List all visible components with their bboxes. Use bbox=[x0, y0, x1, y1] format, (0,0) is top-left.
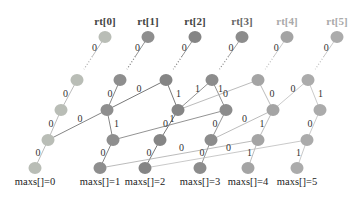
maxs-label: maxs[]=3 bbox=[180, 176, 220, 187]
trie-node bbox=[172, 104, 185, 116]
trie-node bbox=[194, 162, 207, 174]
trie-node bbox=[252, 74, 265, 86]
root-label: rt[3] bbox=[231, 15, 252, 27]
edge-label: 0 bbox=[229, 42, 234, 53]
maxs-label: maxs[]=1 bbox=[80, 176, 120, 187]
trie-node bbox=[206, 74, 219, 86]
maxs-label: maxs[]=5 bbox=[277, 176, 317, 187]
bottom-labels-layer: maxs[]=0maxs[]=1maxs[]=2maxs[]=3maxs[]=4… bbox=[15, 176, 317, 187]
edge-label: 0 bbox=[242, 113, 247, 124]
trie-node bbox=[42, 134, 55, 146]
edge-label: 0 bbox=[179, 142, 184, 153]
trie-node bbox=[160, 74, 173, 86]
edge-label: 0 bbox=[135, 42, 140, 53]
trie-node bbox=[220, 104, 233, 116]
root-label: rt[0] bbox=[94, 15, 115, 27]
edge-label: 1 bbox=[195, 83, 200, 94]
trie-node bbox=[242, 162, 255, 174]
edge-label: 0 bbox=[137, 83, 142, 94]
trie-node bbox=[189, 31, 202, 43]
trie-node bbox=[331, 31, 344, 43]
edge-label: 0 bbox=[92, 42, 97, 53]
trie-node bbox=[142, 31, 155, 43]
edge-label: 0 bbox=[147, 147, 152, 158]
maxs-label: maxs[]=0 bbox=[15, 176, 55, 187]
edge-label: 1 bbox=[176, 88, 181, 99]
edge-label: 0 bbox=[270, 88, 275, 99]
trie-node bbox=[55, 104, 68, 116]
trie-node bbox=[252, 134, 265, 146]
edge-label: 0 bbox=[213, 118, 218, 129]
maxs-label: maxs[]=4 bbox=[228, 176, 269, 187]
edge-label: 1 bbox=[247, 147, 252, 158]
edge-label: 0 bbox=[108, 88, 113, 99]
trie-node bbox=[314, 104, 327, 116]
edge-label: 0 bbox=[101, 147, 106, 158]
trie-node bbox=[236, 31, 249, 43]
trie-node bbox=[281, 31, 294, 43]
trie-node bbox=[139, 162, 152, 174]
trie-node bbox=[71, 74, 84, 86]
edge-label: 0 bbox=[324, 42, 329, 53]
edge-label: 0 bbox=[163, 118, 168, 129]
trie-node bbox=[302, 74, 315, 86]
trie-node bbox=[154, 134, 167, 146]
trie-diagram: 000000000001001001010010011001010 rt[0]r… bbox=[0, 0, 364, 200]
root-label: rt[1] bbox=[137, 15, 158, 27]
root-label: rt[5] bbox=[326, 15, 347, 27]
trie-node bbox=[291, 162, 304, 174]
edge-label: 0 bbox=[223, 88, 228, 99]
edge-label: 1 bbox=[170, 113, 175, 124]
trie-node bbox=[94, 162, 107, 174]
edge-label: 1 bbox=[318, 88, 323, 99]
edge-label: 1 bbox=[260, 118, 265, 129]
root-label: rt[4] bbox=[276, 15, 297, 27]
edges-layer bbox=[35, 37, 337, 168]
root-labels-layer: rt[0]rt[1]rt[2]rt[3]rt[4]rt[5] bbox=[94, 15, 347, 27]
edge-label: 0 bbox=[49, 118, 54, 129]
trie-node bbox=[107, 134, 120, 146]
edge-label: 0 bbox=[63, 88, 68, 99]
edge-label: 1 bbox=[296, 147, 301, 158]
trie-node bbox=[267, 104, 280, 116]
edge-label: 0 bbox=[226, 142, 231, 153]
edge-label: 0 bbox=[274, 42, 279, 53]
trie-node bbox=[114, 74, 127, 86]
edge-label: 1 bbox=[114, 118, 119, 129]
edge-label: 0 bbox=[78, 113, 83, 124]
trie-node bbox=[99, 31, 112, 43]
trie-node bbox=[29, 162, 42, 174]
edge-label: 0 bbox=[182, 42, 187, 53]
edge-label: 0 bbox=[36, 147, 41, 158]
edge-label: 0 bbox=[291, 83, 296, 94]
trie-node bbox=[101, 104, 114, 116]
trie-node bbox=[205, 134, 218, 146]
edge-label: 1 bbox=[218, 83, 223, 94]
edge-label: 0 bbox=[200, 147, 205, 158]
root-label: rt[2] bbox=[184, 15, 205, 27]
trie-node bbox=[301, 134, 314, 146]
maxs-label: maxs[]=2 bbox=[125, 176, 165, 187]
edge-label: 0 bbox=[308, 118, 313, 129]
